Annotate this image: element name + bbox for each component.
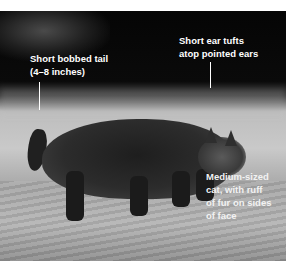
- tail-annotation-line-2: (4–8 inches): [30, 65, 108, 78]
- bobcat-leg: [172, 171, 190, 207]
- tail-annotation: Short bobbed tail (4–8 inches): [30, 52, 108, 78]
- bobcat-ear: [225, 130, 237, 146]
- bobcat-ear: [205, 127, 217, 143]
- bobcat-leg: [130, 176, 148, 216]
- tail-pointer-line: [39, 82, 40, 110]
- tail-annotation-line-1: Short bobbed tail: [30, 52, 108, 65]
- face-annotation-line-2: cat, with ruff: [206, 183, 271, 196]
- ears-annotation-line-2: atop pointed ears: [179, 47, 258, 60]
- horizon-haze: [0, 89, 286, 115]
- ears-pointer-line: [210, 62, 211, 88]
- face-annotation-line-3: of fur on sides: [206, 196, 271, 209]
- face-annotation-line-4: of face: [206, 209, 271, 222]
- ears-annotation-line-1: Short ear tufts: [179, 34, 258, 47]
- face-annotation-line-1: Medium-sized: [206, 170, 271, 183]
- ears-annotation: Short ear tufts atop pointed ears: [179, 34, 258, 60]
- bobcat-leg: [66, 171, 84, 221]
- face-annotation: Medium-sized cat, with ruff of fur on si…: [206, 170, 271, 222]
